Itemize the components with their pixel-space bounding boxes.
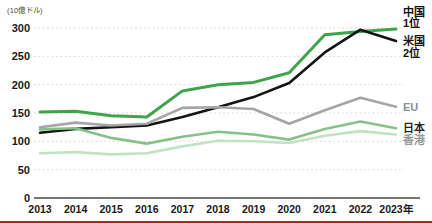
chart-page: (10億ドル) 05010015020025030020132014201520… xyxy=(0,0,432,223)
x-tick-2015: 2015 xyxy=(100,203,124,215)
y-tick-50: 50 xyxy=(18,164,30,176)
x-tick-2017: 2017 xyxy=(171,203,195,215)
y-tick-200: 200 xyxy=(12,79,30,91)
x-tick-2013: 2013 xyxy=(28,203,52,215)
series-label-usa-1: 2位 xyxy=(403,46,420,59)
x-tick-2020: 2020 xyxy=(278,203,302,215)
y-tick-150: 150 xyxy=(12,107,30,119)
x-tick-2014: 2014 xyxy=(64,203,88,215)
line-chart: 0501001502002503002013201420152016201720… xyxy=(0,0,432,223)
bottom-accent-bar xyxy=(0,221,432,223)
series-label-eu-0: EU xyxy=(403,101,418,113)
series-label-china-1: 1位 xyxy=(403,16,420,29)
y-axis-unit-label: (10億ドル) xyxy=(7,4,43,15)
y-tick-250: 250 xyxy=(12,50,30,62)
x-tick-2016: 2016 xyxy=(135,203,159,215)
series-label-usa-0: 米国 xyxy=(402,34,425,47)
x-tick-2021: 2021 xyxy=(313,203,337,215)
x-tick-2022: 2022 xyxy=(349,203,373,215)
series-line-usa xyxy=(40,30,396,133)
series-line-hongkong xyxy=(40,131,396,154)
y-tick-300: 300 xyxy=(12,22,30,34)
series-label-japan-0: 日本 xyxy=(403,121,425,134)
x-tick-2018: 2018 xyxy=(206,203,230,215)
x-tick-2023: 2023年 xyxy=(379,203,413,215)
x-tick-2019: 2019 xyxy=(242,203,266,215)
y-tick-100: 100 xyxy=(12,135,30,147)
series-label-hongkong-0: 香港 xyxy=(402,133,426,146)
